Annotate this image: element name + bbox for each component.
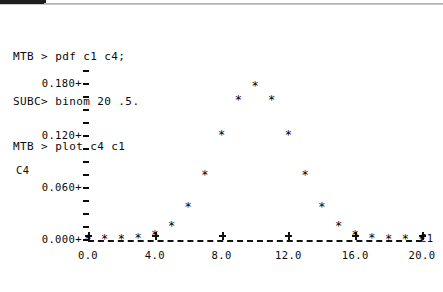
scan-edge-line xyxy=(0,4,443,5)
data-point: * xyxy=(101,233,108,245)
data-point: * xyxy=(168,220,175,232)
scan-edge-line-secondary xyxy=(44,3,443,4)
data-point: * xyxy=(352,229,359,241)
data-point: * xyxy=(84,233,91,245)
data-point: * xyxy=(201,169,208,181)
data-point: * xyxy=(134,232,141,244)
data-point: * xyxy=(318,201,325,213)
y-tick-label: 0.060+ xyxy=(0,181,82,193)
character-scatter-plot: 0.180+0.120+0.060+0.000+ C4 C1 0.04.08.0… xyxy=(0,66,443,276)
y-axis-tick-mark xyxy=(83,174,89,176)
data-point: * xyxy=(402,233,409,245)
y-axis-tick-mark xyxy=(83,226,89,228)
y-tick-label: 0.180+ xyxy=(0,77,82,89)
x-tick-label: 4.0 xyxy=(145,249,165,261)
y-axis-tick-mark xyxy=(83,187,89,189)
y-axis-tick-mark xyxy=(83,148,89,150)
data-point: * xyxy=(251,80,258,92)
x-tick-label: 0.0 xyxy=(78,249,98,261)
data-point: * xyxy=(118,233,125,245)
y-axis-variable-label: C4 xyxy=(16,164,29,176)
x-tick-label: 12.0 xyxy=(275,249,302,261)
x-axis-tick-mark xyxy=(285,235,292,237)
session-line-1: MTB > pdf c1 c4; xyxy=(13,49,139,64)
x-tick-label: 20.0 xyxy=(409,249,436,261)
x-tick-label: 16.0 xyxy=(342,249,369,261)
x-tick-label: 8.0 xyxy=(212,249,232,261)
y-axis-tick-mark xyxy=(83,135,89,137)
y-tick-label: 0.000+ xyxy=(0,233,82,245)
y-axis-tick-mark xyxy=(83,122,89,124)
data-point: * xyxy=(301,169,308,181)
y-axis-minor-ticks xyxy=(83,66,93,246)
data-point: * xyxy=(268,94,275,106)
data-point: * xyxy=(285,129,292,141)
y-axis-tick-mark xyxy=(83,161,89,163)
y-axis-tick-mark xyxy=(83,109,89,111)
y-tick-label: 0.120+ xyxy=(0,129,82,141)
x-axis-tick-mark xyxy=(219,235,226,237)
y-axis-tick-mark xyxy=(83,213,89,215)
y-axis-tick-mark xyxy=(83,96,89,98)
data-point: * xyxy=(218,129,225,141)
y-axis-tick-mark xyxy=(83,200,89,202)
data-point: * xyxy=(335,220,342,232)
data-point: * xyxy=(368,232,375,244)
data-point: * xyxy=(185,201,192,213)
data-point: * xyxy=(418,233,425,245)
data-point: * xyxy=(151,229,158,241)
data-point: * xyxy=(235,94,242,106)
y-axis-tick-mark xyxy=(83,83,89,85)
data-point: * xyxy=(385,233,392,245)
y-axis-tick-mark xyxy=(83,70,89,72)
